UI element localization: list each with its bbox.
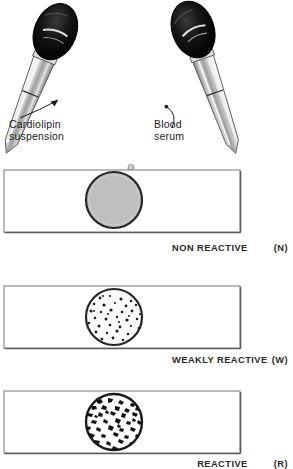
cardiolipin-label-line1: Cardiolipin (9, 119, 89, 131)
panel-reactive (4, 391, 241, 454)
result-code-non-reactive: (N) (274, 243, 288, 253)
result-text-non-reactive: NON REACTIVE (172, 243, 248, 253)
blood-serum-label: Blood serum (154, 119, 214, 142)
result-label-non-reactive: NON REACTIVE (N) (172, 243, 288, 253)
cardiolipin-label: Cardiolipin suspension (9, 119, 89, 142)
blood-serum-label-line2: serum (154, 131, 214, 143)
panel-weakly-reactive (4, 286, 241, 349)
result-text-weakly-reactive: WEAKLY REACTIVE (172, 355, 268, 365)
result-code-reactive: (R) (274, 459, 288, 469)
result-code-weakly-reactive: (W) (272, 355, 288, 365)
panel-non-reactive (4, 170, 241, 233)
cardiolipin-label-line2: suspension (9, 131, 89, 143)
result-label-weakly-reactive: WEAKLY REACTIVE (W) (172, 355, 288, 365)
blood-serum-label-line1: Blood (154, 119, 214, 131)
result-label-reactive: REACTIVE (R) (197, 459, 288, 469)
reaction-circle-non-reactive (86, 172, 142, 228)
result-text-reactive: REACTIVE (197, 459, 248, 469)
